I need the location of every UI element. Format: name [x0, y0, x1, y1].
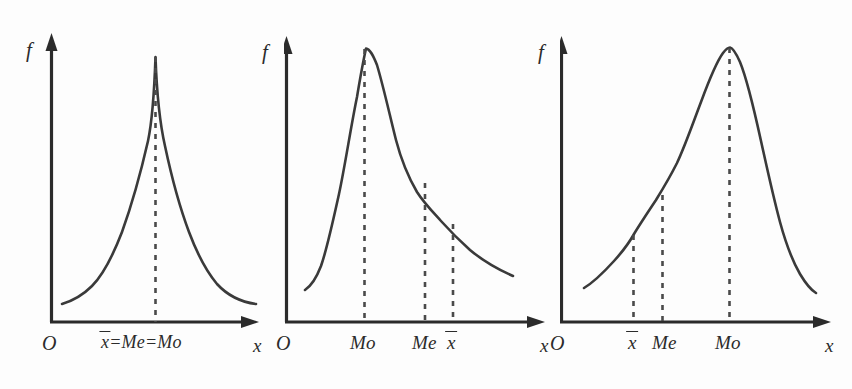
- y-axis-label: f: [538, 42, 544, 63]
- mean-symbol: x: [447, 333, 456, 352]
- frequency-curve: [584, 48, 816, 294]
- distribution-skewness-figure: f O x x=Me=Mo f O x Mo Me x: [0, 0, 852, 389]
- panel-symmetric-distribution: f O x x=Me=Mo: [0, 0, 284, 389]
- mean-overbar-icon: [445, 331, 457, 332]
- panel-3-graphic: [560, 0, 852, 389]
- panel-2-graphic: [284, 0, 560, 389]
- panel-right-skewed-distribution: f O x Mo Me x: [284, 0, 560, 389]
- equals-1: =: [109, 332, 121, 352]
- tick-label-mode: Mo: [715, 333, 741, 352]
- mean-letter: x: [628, 332, 637, 353]
- mode-symbol: Mo: [157, 332, 181, 352]
- median-symbol: Me: [122, 332, 145, 352]
- mean-symbol: x: [101, 333, 109, 351]
- origin-label: O: [276, 333, 290, 353]
- x-axis-arrowhead: [527, 316, 545, 328]
- tick-label-mode: Mo: [350, 333, 376, 352]
- panel-1-graphic: [0, 0, 284, 389]
- y-axis-arrowhead: [560, 36, 568, 54]
- frequency-curve: [305, 49, 513, 291]
- mean-letter: x: [447, 332, 456, 353]
- x-axis-label: x: [253, 336, 261, 355]
- y-axis-arrowhead: [46, 33, 58, 51]
- origin-label: O: [42, 333, 56, 353]
- x-axis-arrowhead: [241, 316, 259, 328]
- x-axis-label: x: [540, 336, 548, 355]
- y-axis-label: f: [26, 40, 32, 61]
- tick-label-mean: x: [628, 333, 637, 352]
- frequency-curve: [62, 57, 256, 304]
- mean-symbol: x: [628, 333, 637, 352]
- mean-overbar-icon: [626, 331, 638, 332]
- tick-label-mean-median-mode: x=Me=Mo: [101, 333, 182, 351]
- tick-label-median: Me: [412, 333, 437, 352]
- panel-left-skewed-distribution: f O x x Me Mo: [560, 0, 852, 389]
- mean-letter: x: [101, 332, 109, 352]
- tick-label-median: Me: [652, 333, 677, 352]
- origin-label: O: [550, 333, 564, 353]
- mean-overbar-icon: [100, 331, 111, 332]
- y-axis-label: f: [262, 42, 268, 63]
- x-axis-arrowhead: [813, 316, 831, 328]
- tick-label-mean: x: [447, 333, 456, 352]
- x-axis-label: x: [825, 336, 833, 355]
- equals-2: =: [145, 332, 157, 352]
- y-axis-arrowhead: [284, 36, 293, 54]
